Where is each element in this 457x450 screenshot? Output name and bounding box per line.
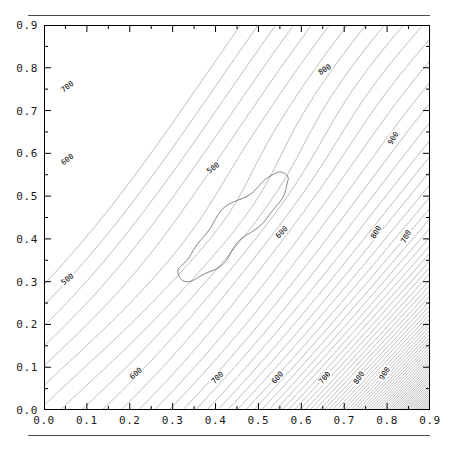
contour-label: 600600 (59, 151, 76, 167)
contour-line (44, 25, 330, 385)
contour-line (44, 25, 241, 284)
contour-label-text: 600 (59, 151, 76, 167)
y-tick-label: 0.6 (4, 147, 38, 160)
contour-label: 600600 (274, 224, 290, 240)
closed-contour-group (178, 172, 288, 282)
y-tick-label: 0.1 (4, 361, 38, 374)
contour-line (300, 267, 430, 410)
y-tick-label: 0.2 (4, 318, 38, 331)
contour-label: 500500 (205, 160, 222, 176)
contour-label-text: 900 (386, 130, 401, 147)
contour-label-text: 600 (128, 365, 144, 381)
contour-line (237, 185, 430, 410)
x-tick-label: 0.1 (76, 414, 98, 427)
contour-line (378, 356, 430, 410)
x-tick-label: 0.4 (205, 414, 227, 427)
contour-line (183, 103, 430, 410)
y-tick-label: 0.5 (4, 190, 38, 203)
contour-line (207, 140, 430, 410)
x-tick-label: 0.6 (290, 414, 312, 427)
contour-line (310, 280, 430, 410)
contour-line (138, 39, 430, 410)
contour-label-text: 800 (369, 224, 384, 241)
x-tick-label: 0.8 (376, 414, 398, 427)
y-tick-label: 0.7 (4, 104, 38, 117)
contour-plot-figure: 7007006006005005005005006006006006007007… (0, 0, 457, 450)
contour-label: 700700 (59, 79, 76, 95)
y-tick-label: 0.8 (4, 61, 38, 74)
contour-line (44, 25, 294, 346)
x-tick-label: 0.3 (162, 414, 184, 427)
contour-lines-group (44, 25, 430, 410)
contour-line (60, 25, 366, 410)
x-tick-label: 0.2 (119, 414, 141, 427)
x-tick-label: 0.7 (333, 414, 355, 427)
contour-label-text: 800 (317, 62, 334, 77)
contour-line (154, 61, 430, 410)
contour-label-text: 500 (205, 160, 222, 176)
contour-label-group: 7007006006005005005005006006006006007007… (59, 62, 413, 386)
y-tick-label: 0.9 (4, 19, 38, 32)
plot-area: 7007006006005005005005006006006006007007… (44, 25, 430, 410)
contour-label-text: 500 (59, 271, 76, 287)
contour-label: 500500 (59, 271, 76, 287)
contour-label-text: 700 (209, 369, 225, 385)
contour-line (367, 344, 430, 410)
bottom-horizontal-rule (28, 435, 430, 436)
contour-line (195, 122, 430, 410)
contour-label-text: 600 (274, 224, 290, 240)
top-horizontal-rule (28, 15, 430, 16)
contour-label: 600600 (128, 365, 144, 381)
contour-canvas: 7007006006005005005005006006006006007007… (44, 25, 430, 410)
contour-line (288, 253, 430, 410)
contour-label: 800800 (369, 224, 384, 241)
contour-line (169, 82, 430, 410)
contour-label: 900900 (386, 130, 401, 147)
contour-label: 700700 (209, 369, 225, 385)
contour-line (44, 25, 312, 366)
y-tick-label: 0.4 (4, 232, 38, 245)
contour-line (81, 25, 384, 410)
contour-line (390, 369, 430, 410)
x-tick-label: 0.9 (419, 414, 441, 427)
x-tick-label: 0.5 (248, 414, 270, 427)
contour-line (386, 364, 430, 410)
contour-label: 800800 (317, 62, 334, 77)
contour-line (44, 25, 276, 326)
contour-label-text: 700 (59, 79, 76, 95)
axis-tick-group (44, 25, 430, 410)
y-tick-label: 0.0 (4, 404, 38, 417)
y-tick-label: 0.3 (4, 275, 38, 288)
closed-contour-lobe (178, 172, 288, 282)
contour-line (44, 25, 258, 305)
